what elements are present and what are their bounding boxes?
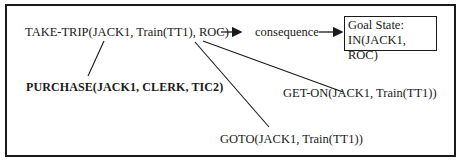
edge-take-trip-to-purchase — [88, 41, 104, 76]
goal-state-box: Goal State: IN(JACK1, ROC) — [344, 16, 437, 51]
goal-state-value: IN(JACK1, ROC) — [348, 33, 436, 63]
node-consequence: consequence — [255, 26, 319, 39]
goal-state-title: Goal State: — [348, 18, 436, 33]
node-take-trip: TAKE-TRIP(JACK1, Train(TT1), ROC) — [25, 26, 229, 39]
edge-take-trip-to-get-on — [203, 41, 343, 92]
node-get-on: GET-ON(JACK1, Train(TT1)) — [283, 87, 437, 100]
node-purchase: PURCHASE(JACK1, CLERK, TIC2) — [26, 81, 223, 93]
node-goto: GOTO(JACK1, Train(TT1)) — [220, 133, 363, 146]
